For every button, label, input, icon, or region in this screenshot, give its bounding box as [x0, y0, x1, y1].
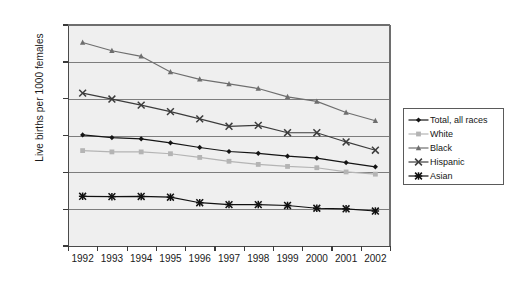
legend-label: Black: [430, 141, 452, 155]
x-tick-mark: [273, 246, 274, 251]
legend-marker-cross-icon: [407, 155, 430, 169]
chart-root: Live births per 1000 females 120.0100.08…: [0, 0, 512, 293]
legend-label: Total, all races: [430, 113, 488, 127]
legend-marker-triangle-icon: [407, 141, 430, 155]
x-tick-mark: [244, 246, 245, 251]
x-tick-mark: [97, 246, 98, 251]
legend-marker-diamond-icon: [407, 113, 430, 127]
series-asian: [79, 193, 379, 215]
x-tick-mark: [361, 246, 362, 251]
x-tick-mark: [302, 246, 303, 251]
x-tick-mark: [390, 246, 391, 251]
legend-item-asian[interactable]: Asian: [404, 169, 503, 183]
legend-item-total-all-races[interactable]: Total, all races: [404, 113, 503, 127]
legend-label: Hispanic: [430, 155, 465, 169]
legend: Total, all racesWhiteBlackHispanicAsian: [403, 108, 504, 185]
y-axis-title: Live births per 1000 females: [34, 23, 45, 173]
series-black: [80, 39, 378, 123]
legend-item-white[interactable]: White: [404, 127, 503, 141]
x-tick-mark: [68, 246, 69, 251]
legend-marker-square-icon: [407, 127, 430, 141]
x-tick-mark: [185, 246, 186, 251]
series-layer: [68, 25, 390, 246]
legend-marker-star-icon: [407, 169, 430, 183]
x-tick-mark: [127, 246, 128, 251]
legend-item-hispanic[interactable]: Hispanic: [404, 155, 503, 169]
legend-item-black[interactable]: Black: [404, 141, 503, 155]
x-axis-line: [68, 246, 390, 247]
legend-label: Asian: [430, 169, 453, 183]
x-tick-mark: [214, 246, 215, 251]
x-tick-label: 2002: [353, 253, 397, 264]
series-hispanic: [79, 90, 379, 154]
x-tick-mark: [331, 246, 332, 251]
legend-label: White: [430, 127, 453, 141]
x-tick-mark: [156, 246, 157, 251]
